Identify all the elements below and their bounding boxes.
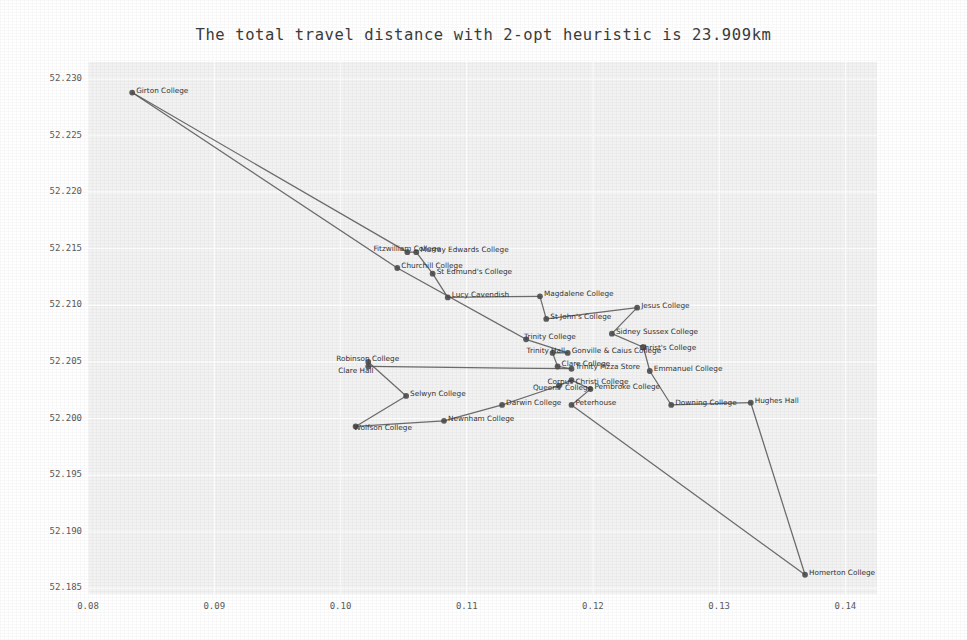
y-axis-tick: 52.220 [32, 186, 82, 196]
tour-edge [612, 308, 637, 334]
tour-edge [397, 268, 526, 339]
tour-edge [540, 296, 546, 319]
node-marker [129, 90, 135, 96]
y-axis-tick: 52.225 [32, 130, 82, 140]
tour-edge [546, 308, 637, 319]
node-marker [537, 293, 543, 299]
figure-canvas: The total travel distance with 2-opt heu… [0, 0, 967, 640]
node-marker [802, 572, 808, 578]
node-marker [445, 295, 451, 301]
node-marker [499, 402, 505, 408]
tour-edge [671, 403, 751, 405]
page-title: The total travel distance with 2-opt heu… [0, 26, 967, 44]
tour-edge [448, 296, 540, 297]
node-marker [394, 265, 400, 271]
tour-edge [132, 93, 407, 253]
y-axis-tick: 52.230 [32, 73, 82, 83]
y-axis-tick: 52.205 [32, 356, 82, 366]
x-axis-tick: 0.12 [563, 601, 623, 611]
node-marker [569, 377, 575, 383]
node-marker [748, 400, 754, 406]
node-marker [404, 249, 410, 255]
y-axis-tick: 52.215 [32, 243, 82, 253]
y-axis-tick: 52.195 [32, 469, 82, 479]
x-axis-tick: 0.08 [58, 601, 118, 611]
tour-edge [433, 274, 448, 298]
tour-edge [612, 334, 644, 348]
y-axis-tick: 52.185 [32, 582, 82, 592]
tour-plot-svg [88, 62, 877, 594]
tour-edge [643, 347, 649, 371]
node-markers [129, 90, 808, 578]
node-marker [413, 249, 419, 255]
node-marker [647, 368, 653, 374]
node-marker [550, 350, 556, 356]
node-marker [565, 350, 571, 356]
y-axis-tick: 52.210 [32, 299, 82, 309]
node-marker [668, 402, 674, 408]
tour-edge [356, 396, 406, 427]
tour-edge [368, 366, 571, 368]
node-marker [441, 418, 447, 424]
node-marker [588, 386, 594, 392]
y-axis-tick: 52.200 [32, 413, 82, 423]
node-marker [569, 402, 575, 408]
x-axis-tick: 0.14 [815, 601, 875, 611]
x-axis-tick: 0.13 [689, 601, 749, 611]
x-axis-tick: 0.09 [184, 601, 244, 611]
node-marker [609, 331, 615, 337]
plot-area: Girton CollegeChurchill CollegeFitzwilli… [88, 62, 877, 594]
node-marker [523, 336, 529, 342]
x-axis-tick: 0.10 [310, 601, 370, 611]
tour-edge [650, 371, 671, 405]
node-marker [556, 383, 562, 389]
node-marker [641, 344, 647, 350]
tour-edge [502, 386, 559, 405]
tour-edge [751, 403, 805, 575]
node-marker [555, 364, 561, 370]
node-marker [365, 364, 371, 370]
tour-edge [356, 421, 444, 427]
node-marker [569, 366, 575, 372]
x-axis-tick: 0.11 [437, 601, 497, 611]
node-marker [430, 271, 436, 277]
tour-edge [571, 380, 590, 389]
y-axis-tick: 52.190 [32, 526, 82, 536]
tour-edges [132, 93, 805, 575]
tour-edge [526, 339, 568, 353]
node-marker [543, 316, 549, 322]
node-marker [353, 424, 359, 430]
node-marker [634, 305, 640, 311]
tour-edge [132, 93, 397, 268]
node-marker [403, 393, 409, 399]
tour-edge [416, 252, 432, 274]
tour-edge [571, 405, 805, 575]
tour-edge [571, 389, 590, 405]
